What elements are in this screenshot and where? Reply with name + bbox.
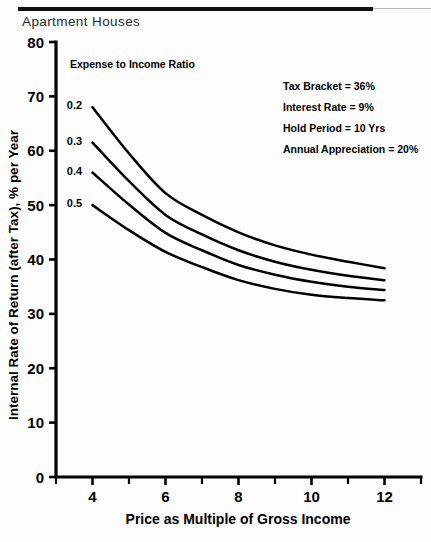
y-tick-label: 40 (27, 251, 44, 268)
chart-series-labels: 0.20.30.40.5 (67, 99, 83, 209)
y-tick-label: 10 (27, 414, 44, 431)
y-tick-label: 60 (27, 142, 44, 159)
chart-series-curves (93, 107, 385, 300)
y-tick-label: 80 (27, 34, 44, 51)
x-tick-label: 4 (88, 488, 97, 505)
y-tick-label: 30 (27, 305, 44, 322)
y-tick-label: 20 (27, 360, 44, 377)
annotation-line-4: Annual Appreciation = 20% (283, 143, 419, 155)
x-tick-label: 8 (234, 488, 242, 505)
x-tick-label: 6 (161, 488, 169, 505)
annotation-line-1: Tax Bracket = 36% (283, 80, 375, 92)
x-tick-label: 10 (303, 488, 320, 505)
y-tick-label: 70 (27, 88, 44, 105)
y-axis-title: Internal Rate of Return (after Tax), % p… (6, 129, 21, 420)
x-tick-label: 12 (376, 488, 393, 505)
series-label-0.5: 0.5 (67, 197, 82, 209)
annotation-line-2: Interest Rate = 9% (283, 101, 374, 113)
series-label-0.4: 0.4 (67, 165, 83, 177)
parameter-annotations: Tax Bracket = 36%Interest Rate = 9%Hold … (283, 80, 419, 155)
y-tick-label: 50 (27, 197, 44, 214)
y-axis-tick-labels: 01020304050607080 (27, 34, 44, 486)
figure-page: Apartment Houses 01020304050607080 46810… (0, 0, 431, 542)
chart-canvas: 01020304050607080 4681012 0.20.30.40.5 E… (0, 0, 431, 542)
x-axis-tick-labels: 4681012 (88, 488, 393, 505)
legend-title: Expense to Income Ratio (70, 58, 195, 70)
series-label-0.3: 0.3 (67, 135, 82, 147)
x-axis-title: Price as Multiple of Gross Income (126, 511, 351, 527)
y-tick-label: 0 (36, 469, 44, 486)
series-label-0.2: 0.2 (67, 99, 82, 111)
annotation-line-3: Hold Period = 10 Yrs (283, 122, 385, 134)
